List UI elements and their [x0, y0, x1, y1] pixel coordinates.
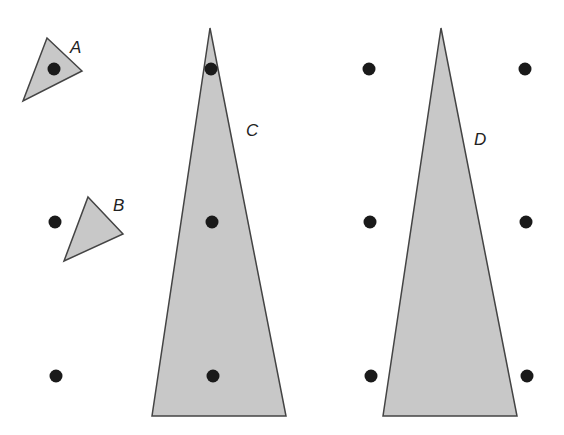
triangle-d [383, 28, 517, 416]
diagram-canvas: ABCD [0, 0, 564, 435]
label-b: B [113, 196, 124, 215]
dot [521, 370, 534, 383]
dot [519, 63, 532, 76]
dot [49, 216, 62, 229]
diagram-svg: ABCD [0, 0, 564, 435]
dot [50, 370, 63, 383]
dot [365, 370, 378, 383]
dot [48, 63, 61, 76]
dot [364, 216, 377, 229]
triangles-group [23, 28, 517, 416]
dot [206, 216, 219, 229]
dot [205, 63, 218, 76]
label-d: D [474, 130, 486, 149]
triangle-c [152, 28, 286, 416]
dot [363, 63, 376, 76]
dot [520, 216, 533, 229]
dot [207, 370, 220, 383]
label-a: A [69, 38, 81, 57]
label-c: C [246, 121, 259, 140]
